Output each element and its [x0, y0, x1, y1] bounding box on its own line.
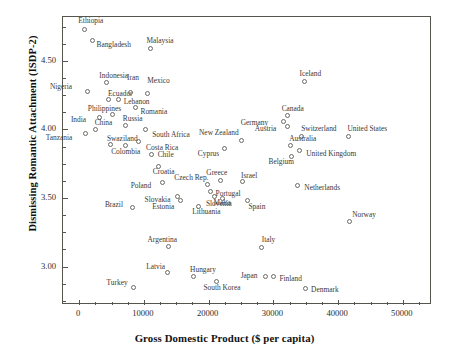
- y-tick-major: [63, 129, 68, 130]
- data-point: [90, 38, 95, 43]
- x-tick-label: 40000: [326, 308, 347, 318]
- data-point-label: Germany: [241, 119, 269, 127]
- data-point-label: Italy: [262, 236, 276, 244]
- data-point-label: South Korea: [203, 284, 240, 292]
- data-point: [347, 219, 352, 224]
- x-tick-minor: [241, 302, 242, 305]
- data-point: [302, 79, 307, 84]
- data-point-label: Portugal: [216, 190, 241, 198]
- data-point-label: Philippines: [88, 105, 121, 113]
- x-tick-minor: [419, 302, 420, 305]
- data-point: [178, 198, 183, 203]
- data-point-label: Brazil: [105, 201, 123, 209]
- x-tick-minor: [95, 302, 96, 305]
- data-point-label: Croatia: [153, 168, 175, 176]
- data-point-label: Spain: [249, 203, 266, 211]
- data-point-label: Estonia: [152, 203, 174, 211]
- data-point: [149, 152, 154, 157]
- data-point: [160, 180, 165, 185]
- y-tick-minor: [63, 95, 66, 96]
- data-point-label: Argentina: [148, 236, 177, 244]
- x-tick-major: [79, 300, 80, 305]
- data-point-label: New Zealand: [199, 129, 239, 137]
- x-tick-minor: [306, 302, 307, 305]
- y-tick-minor: [63, 249, 66, 250]
- data-point-label: Russia: [123, 115, 143, 123]
- data-point-label: South Africa: [152, 131, 190, 139]
- data-point: [297, 148, 302, 153]
- x-tick-minor: [322, 302, 323, 305]
- data-point: [85, 89, 90, 94]
- y-tick-minor: [63, 232, 66, 233]
- x-tick-major: [403, 300, 404, 305]
- data-point-label: Nigeria: [50, 83, 72, 91]
- data-point-label: Latvia: [146, 263, 165, 271]
- y-tick-minor: [63, 301, 66, 302]
- data-point-label: Israel: [241, 172, 257, 180]
- data-point: [288, 143, 293, 148]
- data-point: [83, 131, 88, 136]
- data-point: [148, 46, 153, 51]
- data-point: [346, 134, 351, 139]
- data-point: [191, 274, 196, 279]
- x-tick-minor: [371, 302, 372, 305]
- data-point: [240, 179, 245, 184]
- data-point-label: Hungary: [190, 266, 216, 274]
- data-point-label: Finland: [279, 275, 302, 283]
- data-point-label: Iran: [127, 74, 139, 82]
- plot-area: EthiopiaBangladeshMalaysiaIndonesiaNiger…: [62, 16, 431, 304]
- data-point-label: Netherlands: [304, 184, 340, 192]
- data-point-label: Chile: [158, 151, 174, 159]
- x-tick-minor: [387, 302, 388, 305]
- data-point-label: Turkey: [107, 279, 128, 287]
- data-point-label: Colombia: [111, 148, 140, 156]
- data-point-label: Belgium: [269, 158, 294, 166]
- data-point-label: Greece: [206, 169, 227, 177]
- data-point: [239, 138, 244, 143]
- data-point-label: Swaziland: [107, 135, 138, 143]
- y-tick-major: [63, 267, 68, 268]
- y-tick-minor: [63, 215, 66, 216]
- data-point: [82, 27, 87, 32]
- y-tick-minor: [63, 147, 66, 148]
- y-tick-major: [63, 198, 68, 199]
- data-point-label: Cyprus: [198, 150, 219, 158]
- x-tick-minor: [160, 302, 161, 305]
- data-point-label: Norway: [352, 211, 376, 219]
- data-point-label: Iceland: [299, 70, 321, 78]
- data-point: [285, 124, 290, 129]
- data-point: [133, 105, 138, 110]
- y-tick-minor: [63, 181, 66, 182]
- data-point-label: Australia: [289, 135, 316, 143]
- x-tick-minor: [192, 302, 193, 305]
- data-point-label: Indonesia: [99, 72, 128, 80]
- data-point: [263, 274, 268, 279]
- data-point: [93, 127, 98, 132]
- y-axis-label: Dismissing Romantic Attachment (ISDP-2): [27, 4, 38, 264]
- x-tick-major: [338, 300, 339, 305]
- data-point-label: China: [95, 119, 113, 127]
- data-point: [136, 139, 141, 144]
- data-point-label: Canada: [282, 105, 304, 113]
- data-point: [131, 285, 136, 290]
- x-tick-minor: [176, 302, 177, 305]
- y-tick-major: [63, 61, 68, 62]
- data-point-label: Ethiopia: [78, 17, 103, 25]
- y-tick-minor: [63, 284, 66, 285]
- x-tick-minor: [128, 302, 129, 305]
- data-point-label: United Kingdom: [306, 150, 356, 158]
- x-tick-label: 20000: [197, 308, 218, 318]
- x-tick-label: 30000: [262, 308, 283, 318]
- data-point: [208, 189, 213, 194]
- y-tick-minor: [63, 27, 66, 28]
- y-tick-minor: [63, 78, 66, 79]
- x-tick-minor: [112, 302, 113, 305]
- data-point: [205, 182, 210, 187]
- y-tick-label: 4.50: [41, 55, 56, 65]
- data-point: [218, 178, 223, 183]
- data-point-label: United States: [347, 125, 387, 133]
- y-tick-minor: [63, 164, 66, 165]
- x-tick-label: 50000: [391, 308, 412, 318]
- data-point: [295, 183, 300, 188]
- y-tick-minor: [63, 112, 66, 113]
